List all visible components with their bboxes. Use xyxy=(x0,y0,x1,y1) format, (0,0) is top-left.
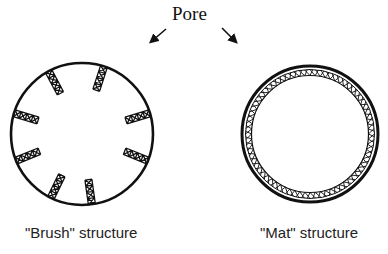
brush-chain xyxy=(125,110,151,124)
brush-structure xyxy=(11,63,153,205)
brush-chain xyxy=(85,179,95,205)
brush-chain xyxy=(13,110,39,124)
mat-layer-inner xyxy=(252,76,369,193)
brush-structure-caption: "Brush" structure xyxy=(25,224,137,241)
brush-chains xyxy=(13,65,151,204)
mat-structure xyxy=(242,66,378,202)
brush-chain xyxy=(15,148,41,164)
brush-chain xyxy=(123,148,149,164)
mat-chain-hatching xyxy=(246,70,375,199)
brush-pore-wall xyxy=(11,63,153,205)
mat-structure-caption: "Mat" structure xyxy=(260,224,358,241)
brush-chain xyxy=(48,174,65,200)
pore-arrow-left xyxy=(152,29,166,41)
mat-pore-wall xyxy=(242,66,378,202)
brush-chain xyxy=(46,70,64,95)
pore-label: Pore xyxy=(172,3,207,25)
brush-chain xyxy=(93,65,107,91)
pore-arrow-right xyxy=(222,28,235,41)
pore-structures-diagram xyxy=(0,0,388,254)
